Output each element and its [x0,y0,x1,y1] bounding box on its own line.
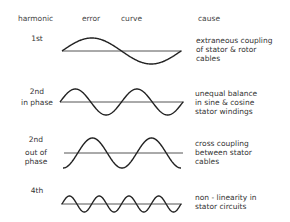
error-curves [0,0,290,222]
